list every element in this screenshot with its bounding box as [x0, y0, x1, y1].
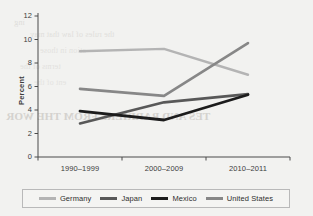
legend-item-label: Japan	[121, 194, 142, 203]
legend-item[interactable]: Mexico	[151, 194, 196, 203]
legend-item[interactable]: Germany	[39, 194, 92, 203]
legend-item-label: Mexico	[172, 194, 196, 203]
series-line-germany	[80, 49, 248, 75]
chart-page: ing the rules of law that may ation in t…	[0, 0, 313, 216]
line-chart-plot	[0, 0, 313, 216]
legend-swatch-icon	[206, 197, 223, 200]
legend-swatch-icon	[100, 197, 117, 200]
legend-item-label: Germany	[60, 194, 92, 203]
legend-item[interactable]: United States	[206, 194, 273, 203]
legend-item-label: United States	[227, 194, 273, 203]
chart-legend: GermanyJapanMexicoUnited States	[22, 189, 290, 208]
legend-swatch-icon	[151, 197, 168, 200]
legend-item[interactable]: Japan	[100, 194, 142, 203]
legend-swatch-icon	[39, 197, 56, 200]
